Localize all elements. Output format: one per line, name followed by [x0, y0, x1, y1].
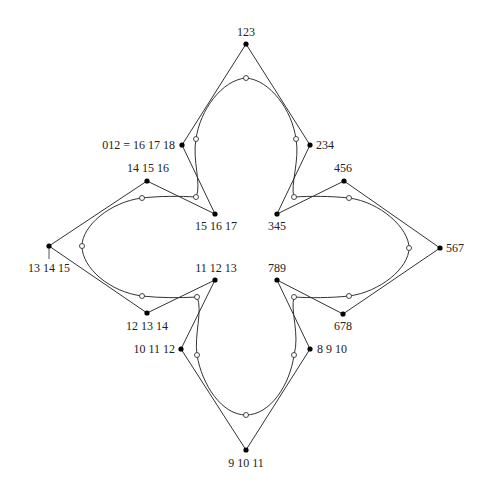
control-point-789 — [274, 277, 279, 282]
control-point-8-9-10 — [307, 346, 312, 351]
curve-point — [195, 353, 200, 358]
curve-point — [292, 353, 297, 358]
control-point-012 — [179, 142, 184, 147]
label-123: 123 — [237, 25, 255, 39]
label-8-9-10: 8 9 10 — [317, 342, 347, 356]
bspline-curve — [82, 78, 409, 415]
label-012-16-17-18: 012 = 16 17 18 — [102, 138, 175, 152]
control-point-14-15-16 — [144, 178, 149, 183]
control-point-12-13-14 — [144, 310, 149, 315]
control-point-123 — [243, 41, 248, 46]
curve-point — [244, 413, 249, 418]
curve-point — [347, 196, 352, 201]
control-point-345 — [274, 211, 279, 216]
control-point-456 — [341, 178, 346, 183]
curve-point — [194, 195, 199, 200]
control-point-15-16-17 — [212, 211, 217, 216]
curve-point — [195, 295, 200, 300]
label-13-14-15: 13 14 15 — [28, 261, 70, 275]
curve-point — [244, 76, 249, 81]
curve-point — [347, 294, 352, 299]
curve-point — [407, 246, 412, 251]
label-10-11-12: 10 11 12 — [133, 342, 175, 356]
label-14-15-16: 14 15 16 — [127, 161, 169, 175]
control-point-9-10-11 — [243, 447, 248, 452]
curve-points — [80, 76, 412, 418]
label-234: 234 — [316, 138, 334, 152]
control-point-10-11-12 — [178, 346, 183, 351]
curve-point — [140, 196, 145, 201]
curve-point — [80, 244, 85, 249]
label-12-13-14: 12 13 14 — [126, 319, 168, 333]
label-789: 789 — [268, 261, 286, 275]
control-point-13-14-15 — [46, 243, 51, 248]
label-567: 567 — [446, 241, 464, 255]
label-678: 678 — [334, 319, 352, 333]
control-point-678 — [340, 311, 345, 316]
control-polygon — [49, 44, 440, 450]
label-456: 456 — [334, 161, 352, 175]
curve-point — [292, 295, 297, 300]
control-point-567 — [437, 245, 442, 250]
control-points — [46, 41, 442, 452]
curve-point — [294, 137, 299, 142]
label-9-10-11: 9 10 11 — [228, 456, 264, 470]
control-point-234 — [307, 142, 312, 147]
label-15-16-17: 15 16 17 — [195, 219, 237, 233]
curve-point — [140, 294, 145, 299]
control-point-11-12-13 — [212, 277, 217, 282]
label-11-12-13: 11 12 13 — [195, 261, 237, 275]
label-345: 345 — [268, 219, 286, 233]
curve-point — [292, 195, 297, 200]
curve-point — [194, 137, 199, 142]
bspline-diagram: 123 012 = 16 17 18 234 14 15 16 456 15 1… — [0, 0, 492, 483]
